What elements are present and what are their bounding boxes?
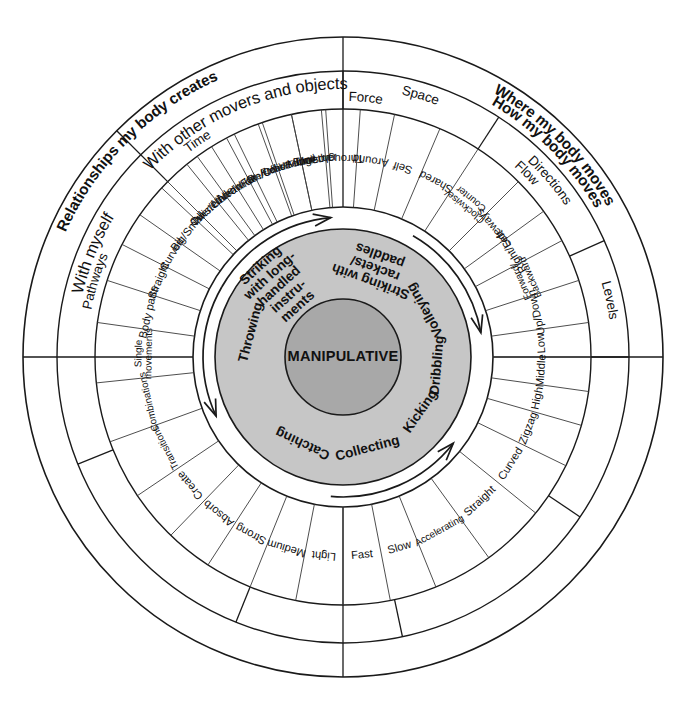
svg-text:Zigzag: Zigzag	[516, 410, 539, 446]
category-divider	[395, 600, 403, 637]
leaf-label-19: Straight	[461, 482, 498, 518]
svg-text:Light: Light	[310, 549, 336, 563]
leaf-label-20: Accelerating	[413, 512, 466, 548]
category-divider	[478, 117, 499, 149]
svg-text:Low: Low	[534, 332, 547, 354]
leaf-label-27: Create	[174, 469, 205, 502]
leaf-label-21: Slow	[386, 537, 414, 556]
svg-text:Straight: Straight	[461, 482, 498, 518]
leaf-divider	[208, 483, 261, 565]
leaf-label-22: Fast	[351, 547, 375, 561]
leaf-label-24: Medium	[265, 537, 307, 560]
category-divider	[78, 450, 113, 464]
leaf-label-14: Low	[534, 332, 547, 354]
leaf-label-26: Absorb	[201, 498, 236, 529]
svg-text:Absorb: Absorb	[201, 498, 236, 529]
wheel-svg-canvas: Relationships my body createsWhere my bo…	[0, 0, 684, 718]
leaf-label-7: Self	[391, 159, 414, 177]
svg-text:Accelerating: Accelerating	[413, 512, 466, 548]
svg-text:Strong: Strong	[233, 522, 268, 548]
category-divider	[570, 241, 605, 256]
leaf-label-16: High	[528, 386, 545, 411]
leaf-label-18: Curved	[495, 445, 525, 482]
category-label-5: Force	[348, 89, 384, 107]
svg-text:Create: Create	[174, 469, 205, 502]
svg-text:High: High	[528, 386, 545, 411]
center-label: MANIPULATIVE	[288, 348, 399, 364]
svg-text:Self: Self	[391, 159, 414, 177]
leaf-label-15: Middle	[533, 354, 547, 388]
svg-text:Slow: Slow	[386, 537, 414, 556]
leaf-label-25: Strong	[233, 522, 268, 548]
category-divider	[549, 496, 581, 517]
leaf-label-23: Light	[310, 549, 336, 563]
svg-text:Curved: Curved	[495, 445, 525, 482]
svg-text:Middle: Middle	[533, 354, 547, 388]
category-label-2: Levels	[599, 279, 622, 320]
svg-text:Medium: Medium	[265, 537, 307, 560]
svg-text:Combinations: Combinations	[136, 371, 160, 432]
svg-text:Mirror: Mirror	[286, 152, 317, 170]
leaf-label-17: Zigzag	[516, 410, 539, 446]
category-divider	[236, 587, 250, 622]
movement-wheel-diagram: Relationships my body createsWhere my bo…	[0, 0, 684, 718]
svg-text:Fast: Fast	[351, 547, 375, 561]
leaf-label-41: Mirror	[286, 152, 317, 170]
leaf-label-29: Combinations	[136, 371, 160, 432]
